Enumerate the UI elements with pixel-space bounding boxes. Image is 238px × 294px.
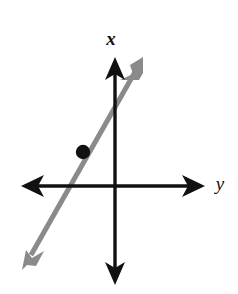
gray-line-group [22,57,143,270]
vertical-axis-label: x [101,29,121,48]
horizontal-axis-group [21,175,205,197]
gray-line-segment [31,72,135,255]
figure-canvas: x y [0,0,238,294]
horizontal-axis-label: y [210,174,230,193]
marked-point [76,145,90,159]
